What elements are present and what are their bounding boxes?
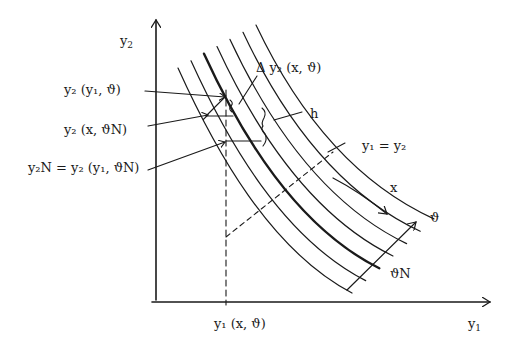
label-x-direction: x bbox=[390, 180, 398, 195]
label-y1-x-theta: y₁ (x, ϑ) bbox=[213, 316, 266, 331]
arrow-y2N bbox=[148, 142, 225, 170]
contour-curve bbox=[178, 68, 352, 293]
label-y2-y1-theta: y₂ (y₁, ϑ) bbox=[63, 82, 121, 97]
label-diagonal: y₁ = y₂ bbox=[361, 138, 406, 153]
diagonal-label-leader bbox=[328, 143, 345, 152]
contour-curve-thetaN bbox=[204, 54, 379, 269]
label-y2-x-thetaN: y₂ (x, ϑN) bbox=[63, 122, 127, 137]
label-h: h bbox=[310, 106, 319, 121]
label-delta-y2: Δ y₂ (x, ϑ) bbox=[256, 60, 321, 75]
label-theta-N: ϑN bbox=[390, 266, 411, 281]
delta-leader bbox=[239, 76, 257, 104]
arrow-y2-x-thetaN bbox=[148, 115, 208, 126]
y1-axis-label: y1 bbox=[467, 316, 481, 333]
x-direction-arrow bbox=[333, 178, 387, 214]
h-brace bbox=[262, 108, 266, 146]
diagram-canvas: y2 y1 y₂ (y₁, ϑ) y₂ (x, ϑN) y₂N = y₂ (y₁… bbox=[0, 0, 518, 350]
label-y2N: y₂N = y₂ (y₁, ϑN) bbox=[27, 160, 139, 175]
contour-curve bbox=[256, 25, 434, 219]
label-theta-direction: ϑ bbox=[430, 210, 439, 225]
contour-curve bbox=[191, 61, 366, 281]
arrow-y2-y1-theta bbox=[145, 91, 225, 97]
y2-axis-label: y2 bbox=[119, 33, 133, 50]
